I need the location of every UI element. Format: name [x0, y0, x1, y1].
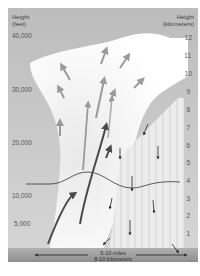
diagram-stage: Height (feet) 40,000 30,000 20,000 10,00… — [0, 0, 200, 276]
left-tick: 5,000 — [14, 220, 30, 227]
right-tick: 2 — [186, 212, 190, 219]
left-tick: 20,000 — [12, 139, 32, 146]
left-axis-title: Height (feet) — [12, 14, 29, 28]
right-tick: 7 — [186, 124, 190, 131]
right-axis-title-line1: Height — [163, 14, 194, 21]
scale-bar-label: 5-10 miles 8-10 kilometers — [92, 250, 134, 262]
right-tick: 5 — [186, 159, 190, 166]
right-tick: 11 — [184, 52, 191, 59]
right-tick: 1 — [186, 230, 190, 237]
thunderstorm-diagram — [8, 8, 198, 268]
right-tick: 8 — [186, 106, 190, 113]
scale-bar-kilometers: 8-10 kilometers — [92, 256, 134, 262]
right-tick: 6 — [186, 142, 190, 149]
right-tick: 12 — [185, 34, 192, 41]
left-tick: 40,000 — [12, 32, 32, 39]
right-tick: 9 — [186, 88, 190, 95]
left-axis-title-line1: Height — [12, 14, 29, 21]
left-axis-title-line2: (feet) — [12, 21, 29, 28]
right-tick: 10 — [185, 70, 192, 77]
left-tick: 30,000 — [12, 86, 32, 93]
right-axis-title: Height (kilometers) — [163, 14, 194, 28]
right-tick: 4 — [186, 177, 190, 184]
left-tick: 10,000 — [12, 192, 32, 199]
right-tick: 3 — [186, 195, 190, 202]
right-axis-title-line2: (kilometers) — [163, 21, 194, 28]
